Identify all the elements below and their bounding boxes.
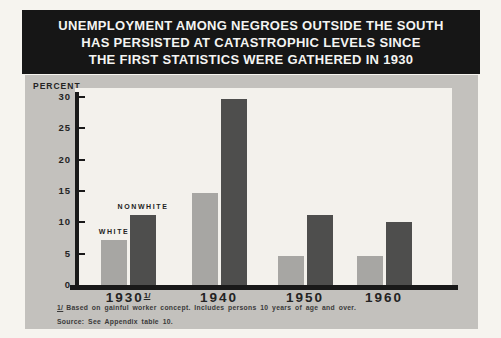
y-tick-mark-10 <box>79 221 85 223</box>
bar-nonwhite-1960 <box>386 222 412 285</box>
y-tick-label-5: 5 <box>41 248 71 259</box>
x-label-1960: 1960 <box>354 290 414 305</box>
y-tick-mark-25 <box>79 127 85 129</box>
bar-nonwhite-1950 <box>307 215 333 285</box>
plot-area: WHITENONWHITE <box>75 88 452 285</box>
bar-nonwhite-1930 <box>130 215 156 285</box>
x-label-1950: 1950 <box>275 290 335 305</box>
legend-label-white: WHITE <box>99 228 130 235</box>
bar-nonwhite-1940 <box>221 99 247 285</box>
y-tick-mark-15 <box>79 190 85 192</box>
legend-label-nonwhite: NONWHITE <box>118 203 169 210</box>
y-tick-label-10: 10 <box>41 216 71 227</box>
y-tick-label-15: 15 <box>41 185 71 196</box>
x-label-1930: 19301/ <box>98 290 158 305</box>
bar-white-1960 <box>357 256 383 285</box>
chart-title-line-2: HAS PERSISTED AT CATASTROPHIC LEVELS SIN… <box>81 34 420 51</box>
scanned-chart-page: UNEMPLOYMENT AMONG NEGROES OUTSIDE THE S… <box>0 0 501 338</box>
bar-white-1930 <box>101 240 127 285</box>
y-axis-title: PERCENT <box>33 81 81 91</box>
footnote-marker: 1/ <box>57 304 63 311</box>
bar-white-1940 <box>192 193 218 285</box>
footnote-source: Source: See Appendix table 10. <box>57 318 173 325</box>
y-tick-mark-30 <box>79 96 85 98</box>
y-tick-label-25: 25 <box>41 122 71 133</box>
y-tick-label-30: 30 <box>41 91 71 102</box>
chart-title-line-3: THE FIRST STATISTICS WERE GATHERED IN 19… <box>89 51 414 68</box>
chart-title-band: UNEMPLOYMENT AMONG NEGROES OUTSIDE THE S… <box>22 10 480 74</box>
footnote-note: 1/Based on gainful worker concept. Inclu… <box>57 304 356 311</box>
x-label-footnote-marker: 1/ <box>144 291 151 300</box>
x-label-1940: 1940 <box>189 290 249 305</box>
y-tick-label-20: 20 <box>41 154 71 165</box>
chart-panel: PERCENT WHITENONWHITE 1/Based on gainful… <box>25 75 478 329</box>
bar-white-1950 <box>278 256 304 285</box>
y-tick-mark-5 <box>79 253 85 255</box>
y-tick-mark-20 <box>79 159 85 161</box>
chart-title-line-1: UNEMPLOYMENT AMONG NEGROES OUTSIDE THE S… <box>58 17 443 34</box>
footnote-text: Based on gainful worker concept. Include… <box>66 304 356 311</box>
y-tick-label-0: 0 <box>41 279 71 290</box>
